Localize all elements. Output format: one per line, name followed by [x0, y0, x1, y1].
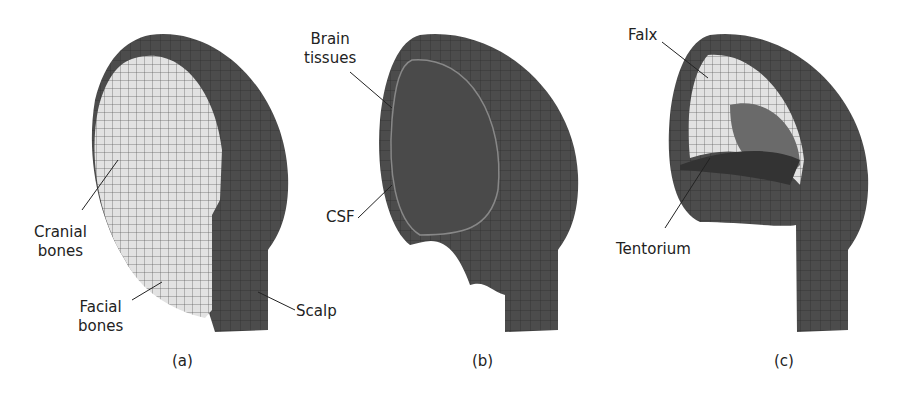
- label-falx: Falx: [628, 26, 658, 45]
- head-model-a: [0, 0, 310, 396]
- panel-b: Braintissues CSF (b): [300, 0, 600, 396]
- label-facial-bones: Facialbones: [78, 298, 123, 336]
- panel-a: Cranialbones Facialbones Scalp (a): [0, 0, 310, 396]
- caption-a: (a): [172, 352, 193, 370]
- label-cranial-bones: Cranialbones: [34, 223, 87, 261]
- head-model-c: [600, 0, 912, 396]
- label-csf: CSF: [326, 208, 355, 227]
- caption-c: (c): [774, 352, 794, 370]
- label-tentorium: Tentorium: [616, 240, 691, 259]
- panel-c: Falx Tentorium (c): [600, 0, 912, 396]
- label-brain-tissues: Braintissues: [304, 30, 356, 68]
- caption-b: (b): [472, 352, 493, 370]
